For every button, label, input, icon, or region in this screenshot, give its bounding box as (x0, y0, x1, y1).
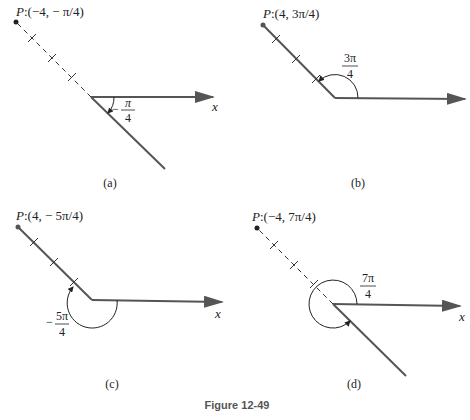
panel-caption: (d) (347, 377, 361, 391)
tick-marks (270, 241, 318, 288)
angle-numerator: π (125, 96, 132, 110)
point-label: :(−4, 7π/4) (260, 209, 316, 224)
angle-numerator: 5π (56, 309, 68, 323)
point-p (255, 226, 260, 231)
point-label: :(−4, − π/4) (24, 4, 84, 19)
panel-a: P:(−4, − π/4) − π 4 x (a) (14, 4, 219, 190)
angle-sign: − (112, 102, 119, 116)
point-label-prefix: P (251, 209, 260, 224)
panel-caption: (a) (103, 176, 116, 190)
dashed-extension (16, 22, 91, 97)
panel-b: P:(4, 3π/4) 3π 4 (b) (261, 6, 466, 190)
point-p (16, 225, 21, 230)
point-label-prefix: P (15, 4, 24, 19)
angle-denominator: 4 (347, 67, 353, 81)
svg-text:P:(4, − 5π/4): P:(4, − 5π/4) (15, 208, 83, 223)
panel-c: P:(4, − 5π/4) − 5π 4 x (c) (15, 208, 222, 391)
x-axis-label: x (458, 309, 465, 324)
angle-sign: − (46, 315, 53, 329)
angle-denominator: 4 (365, 287, 371, 301)
polar-axis (335, 98, 465, 99)
svg-text:P:(−4, − π/4): P:(−4, − π/4) (15, 4, 84, 19)
point-p (261, 23, 266, 28)
svg-text:P:(4, 3π/4): P:(4, 3π/4) (262, 6, 319, 21)
point-label-prefix: P (15, 208, 24, 223)
x-axis-label: x (214, 306, 221, 321)
x-axis-label: x (211, 99, 218, 114)
figure-12-49: P:(−4, − π/4) − π 4 x (a) P:(4, 3π/4) 3π… (0, 0, 470, 420)
tick-marks (28, 34, 76, 81)
panel-d: P:(−4, 7π/4) 7π 4 x (d) (251, 209, 465, 391)
angle-numerator: 7π (362, 271, 374, 285)
point-label-prefix: P (262, 6, 271, 21)
svg-text:P:(−4, 7π/4): P:(−4, 7π/4) (251, 209, 316, 224)
figure-caption: Figure 12-49 (205, 399, 270, 411)
panel-caption: (b) (351, 176, 365, 190)
point-label: :(4, 3π/4) (271, 6, 319, 21)
angle-arc (67, 287, 117, 328)
polar-axis (92, 300, 222, 302)
dashed-extension (257, 228, 333, 304)
polar-axis (333, 304, 460, 306)
terminal-ray (263, 25, 335, 98)
panel-caption: (c) (105, 377, 118, 391)
terminal-ray (18, 227, 92, 300)
angle-denominator: 4 (59, 325, 65, 339)
point-p (14, 20, 19, 25)
point-label: :(4, − 5π/4) (24, 208, 83, 223)
angle-numerator: 3π (344, 51, 356, 65)
terminal-ray (333, 304, 406, 376)
angle-denominator: 4 (125, 111, 131, 125)
